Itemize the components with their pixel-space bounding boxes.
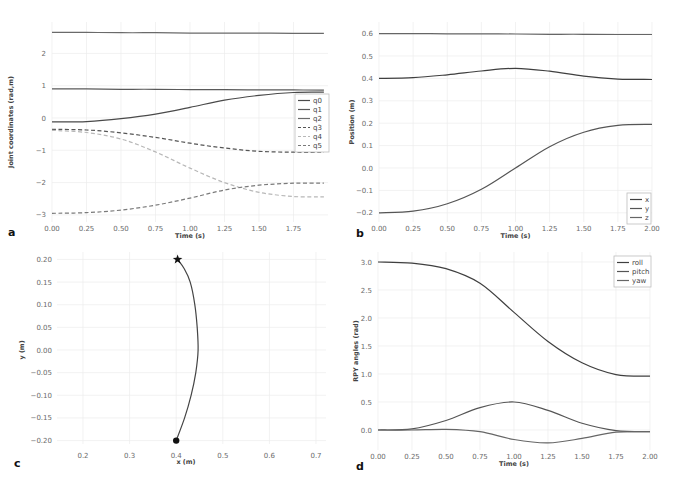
legend: rollpitchyaw: [614, 256, 651, 287]
y-tick-label: 0.0: [361, 427, 372, 435]
legend-label-roll: roll: [632, 259, 643, 267]
panel-letter: a: [8, 226, 15, 239]
x-axis-label: x (m): [176, 458, 195, 466]
x-tick-label: 1.75: [610, 225, 626, 233]
x-tick-label: 1.75: [608, 453, 624, 461]
x-tick-label: 0.00: [44, 225, 60, 233]
y-tick-label: 0.5: [361, 399, 372, 407]
start-point-marker: [173, 437, 179, 443]
legend-label-q2: q2: [313, 115, 322, 123]
y-tick-label: −0.10: [31, 392, 52, 400]
panel-letter: c: [14, 457, 21, 470]
y-tick-label: −2: [36, 179, 46, 187]
y-tick-label: 1: [42, 82, 46, 90]
x-tick-label: 0.00: [371, 225, 387, 233]
legend-label-z: z: [645, 214, 649, 222]
y-axis-label: y (m): [18, 340, 26, 359]
legend: xyz: [627, 193, 651, 224]
x-tick-label: 0.25: [405, 225, 421, 233]
x-tick-label: 0.3: [124, 452, 135, 460]
y-tick-label: −0.20: [31, 437, 52, 445]
panel-c-xy-path-chart: 0.20.30.40.50.60.7−0.20−0.15−0.10−0.050.…: [14, 252, 326, 470]
series-line-q5: [52, 183, 324, 213]
legend-label-pitch: pitch: [632, 268, 649, 276]
y-tick-label: 2.5: [361, 287, 372, 295]
y-tick-label: −3: [36, 211, 46, 219]
x-tick-label: 1.25: [542, 225, 558, 233]
series-line-q4: [52, 130, 324, 197]
panel-letter: d: [356, 460, 364, 473]
y-tick-label: 0.05: [36, 324, 52, 332]
x-tick-label: 0.50: [438, 453, 454, 461]
x-tick-label: 0.25: [79, 225, 95, 233]
legend-label-yaw: yaw: [632, 277, 646, 285]
y-axis-label: Position (m): [348, 100, 356, 145]
y-tick-label: 0.1: [362, 142, 373, 150]
x-tick-label: 1.50: [576, 225, 592, 233]
series-line-q0: [52, 92, 324, 122]
panel-letter: b: [356, 227, 364, 240]
x-tick-label: 0.75: [474, 225, 490, 233]
x-tick-label: 0.75: [148, 225, 164, 233]
x-tick-label: 1.25: [217, 225, 233, 233]
legend: q0q1q2q3q4q5: [295, 94, 329, 152]
legend-label-y: y: [645, 205, 649, 213]
y-tick-label: 1.0: [361, 371, 372, 379]
y-tick-label: 2: [42, 50, 46, 58]
x-tick-label: 1.25: [540, 453, 556, 461]
y-tick-label: −0.15: [31, 414, 52, 422]
legend-label-q5: q5: [313, 142, 322, 150]
y-axis-label: Joint coordinates (rad,m): [7, 76, 15, 169]
y-tick-label: 3.0: [361, 259, 372, 267]
y-tick-label: 0.2: [362, 120, 373, 128]
x-tick-label: 2.00: [644, 225, 660, 233]
x-axis-label: Time (s): [175, 232, 205, 240]
y-tick-label: 0.5: [362, 53, 373, 61]
x-tick-label: 1.50: [251, 225, 267, 233]
x-tick-label: 2.00: [642, 453, 658, 461]
y-tick-label: 0.4: [362, 75, 374, 83]
x-tick-label: 0.50: [439, 225, 455, 233]
legend-label-q3: q3: [313, 124, 322, 132]
y-axis-label: RPY angles (rad): [352, 320, 360, 381]
y-tick-label: 0.6: [362, 30, 374, 38]
legend-label-q1: q1: [313, 106, 322, 114]
y-tick-label: 0: [42, 115, 46, 123]
x-axis-label: Time (s): [499, 460, 529, 468]
legend-label-q0: q0: [313, 97, 322, 105]
y-tick-label: 0.15: [36, 279, 52, 287]
x-tick-label: 0.7: [310, 452, 321, 460]
figure: 0.000.250.500.751.001.251.501.75−3−2−101…: [0, 0, 674, 483]
x-tick-label: 0.50: [113, 225, 129, 233]
panel-a-joint-coordinates-chart: 0.000.250.500.751.001.251.501.75−3−2−101…: [7, 22, 329, 240]
legend-box: [295, 94, 329, 152]
series-line-q3: [52, 129, 324, 152]
legend-label-q4: q4: [313, 133, 322, 141]
y-tick-label: 1.5: [361, 343, 372, 351]
y-tick-label: −1: [36, 147, 46, 155]
goal-star-icon: [173, 254, 183, 263]
y-tick-label: 2.0: [361, 315, 372, 323]
y-tick-label: 0.3: [362, 97, 373, 105]
y-tick-label: −0.1: [356, 187, 373, 195]
x-tick-label: 1.50: [574, 453, 590, 461]
series-line-q2: [52, 32, 324, 33]
panel-d-rpy-angles-chart: 0.000.250.500.751.001.251.501.752.000.00…: [352, 252, 658, 473]
x-tick-label: 1.75: [286, 225, 302, 233]
y-tick-label: 0.20: [36, 256, 52, 264]
x-tick-label: 0.6: [264, 452, 276, 460]
y-tick-label: 0.00: [36, 347, 52, 355]
series-line-q1: [52, 89, 324, 90]
x-axis-label: Time (s): [501, 232, 531, 240]
y-tick-label: 0.10: [36, 301, 52, 309]
x-tick-label: 0.5: [217, 452, 228, 460]
y-tick-label: −0.2: [356, 209, 373, 217]
x-tick-label: 0.00: [370, 453, 386, 461]
panel-b-position-chart: 0.000.250.500.751.001.251.501.752.00−0.2…: [348, 22, 660, 240]
x-tick-label: 0.75: [472, 453, 488, 461]
y-tick-label: −0.05: [31, 369, 52, 377]
y-tick-label: 0.0: [362, 165, 373, 173]
legend-label-x: x: [645, 196, 649, 204]
x-tick-label: 0.25: [404, 453, 420, 461]
x-tick-label: 0.2: [77, 452, 88, 460]
